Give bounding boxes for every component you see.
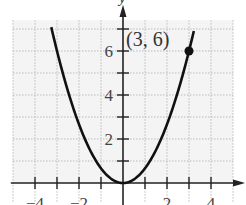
x-tick-label: 4 [207,194,216,205]
x-tick-label: −2 [70,194,88,205]
point-label: (3, 6) [126,28,169,51]
x-axis-arrow-icon [233,180,245,187]
y-tick-label: 4 [105,86,114,105]
y-axis-label: y [117,0,126,6]
y-axis-arrow-icon [120,5,127,17]
y-tick-label: 6 [105,42,114,61]
parabola-chart: xy−4−224246(3, 6) [0,0,246,205]
x-tick-label: 2 [163,194,172,205]
x-tick-label: −4 [26,194,45,205]
y-tick-label: 2 [105,130,114,149]
point-marker [185,47,194,56]
